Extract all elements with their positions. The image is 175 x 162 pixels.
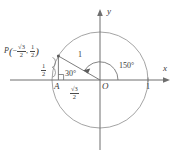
reference-angle-label: 30° bbox=[65, 70, 76, 78]
standard-angle-label: 150° bbox=[119, 62, 134, 70]
point-close-paren: ) bbox=[35, 45, 39, 57]
y-axis-arrowhead bbox=[97, 9, 103, 16]
angle-arc-150 bbox=[84, 62, 118, 80]
sqrt3-half-denominator: 2 bbox=[70, 93, 79, 101]
point-x-denominator: 2 bbox=[17, 51, 26, 59]
sqrt3-radicand: 3 bbox=[75, 85, 78, 92]
origin-label: O bbox=[102, 82, 109, 91]
point-x-numerator: √3 bbox=[17, 44, 26, 51]
point-comma: , bbox=[26, 46, 28, 55]
radius-length-label: 1 bbox=[78, 51, 82, 59]
half-denominator: 2 bbox=[41, 70, 46, 78]
right-angle-marker bbox=[58, 75, 63, 81]
foot-point-label: A bbox=[54, 82, 60, 91]
unit-tick-label: 1 bbox=[146, 83, 150, 91]
unit-circle-figure: y x O A 1 1 30° 150° P(−√32, 12) 12 √32 bbox=[0, 0, 175, 162]
half-fraction: 12 bbox=[41, 63, 46, 78]
x-axis-arrowhead bbox=[163, 77, 170, 83]
point-x-fraction: √32 bbox=[17, 44, 26, 59]
half-numerator: 1 bbox=[41, 63, 46, 70]
horizontal-leg-length-label: √32 bbox=[70, 84, 79, 101]
y-axis-label: y bbox=[107, 7, 111, 16]
figure-canvas bbox=[0, 0, 175, 162]
vertical-leg-length-label: 12 bbox=[41, 61, 46, 78]
point-p-coordinate-label: P(−√32, 12) bbox=[4, 44, 39, 59]
point-p-marker bbox=[57, 55, 60, 58]
x-axis-label: x bbox=[163, 64, 167, 73]
sqrt3-numerator: √3 bbox=[70, 86, 79, 93]
sqrt3-half-fraction: √32 bbox=[70, 86, 79, 101]
point-x-radicand: 3 bbox=[22, 43, 25, 50]
